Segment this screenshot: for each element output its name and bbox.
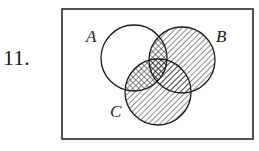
venn-diagram: A B C <box>0 0 259 151</box>
label-b: B <box>216 27 227 46</box>
label-c: C <box>110 102 122 121</box>
label-a: A <box>85 27 97 46</box>
